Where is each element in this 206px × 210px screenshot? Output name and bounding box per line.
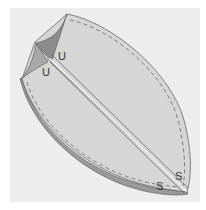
label-u-upper: U	[58, 50, 66, 62]
label-s-left: S	[156, 180, 163, 192]
label-u-lower: U	[42, 66, 50, 78]
label-s-right: S	[175, 170, 182, 182]
sewing-diagram: U U S S	[0, 0, 206, 210]
